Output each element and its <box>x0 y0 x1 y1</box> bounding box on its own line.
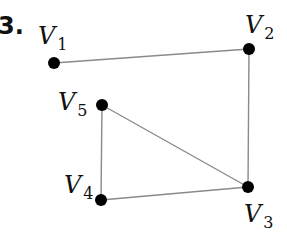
edge-V4-V3 <box>101 187 248 200</box>
node-V4 <box>95 194 107 206</box>
node-V3 <box>242 181 254 193</box>
label-V1: V1 <box>38 22 68 54</box>
edge-V5-V4 <box>101 105 102 200</box>
label-V5: V5 <box>58 88 88 120</box>
edge-V5-V3 <box>102 105 248 187</box>
graph-labels: V1V2V3V4V5 <box>38 11 275 232</box>
graph-edges <box>54 49 249 200</box>
edge-V1-V2 <box>54 49 249 63</box>
label-V3: V3 <box>244 200 274 232</box>
node-V5 <box>96 99 108 111</box>
graph-diagram: V1V2V3V4V5 <box>0 0 287 242</box>
node-V1 <box>48 57 60 69</box>
label-V4: V4 <box>64 171 94 203</box>
edge-V2-V3 <box>248 49 249 187</box>
node-V2 <box>243 43 255 55</box>
label-V2: V2 <box>245 11 275 43</box>
